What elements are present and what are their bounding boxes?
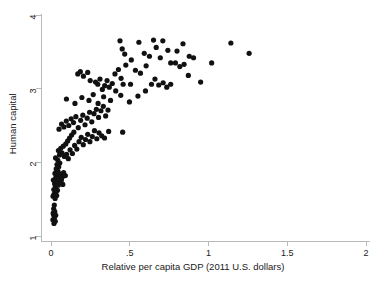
scatter-point (54, 193, 59, 198)
scatter-point (168, 82, 173, 87)
scatter-point (64, 152, 69, 157)
scatter-point (64, 118, 69, 123)
scatter-point (52, 202, 57, 207)
scatter-point (135, 93, 140, 98)
scatter-point (152, 76, 157, 81)
scatter-point (94, 107, 99, 112)
scatter-point (151, 37, 156, 42)
scatter-point (87, 139, 92, 144)
scatter-point (116, 67, 121, 72)
scatter-point (60, 182, 65, 187)
scatter-point (76, 139, 81, 144)
scatter-point (66, 156, 71, 161)
scatter-point (94, 136, 99, 141)
scatter-point (73, 114, 78, 119)
scatter-point (72, 101, 77, 106)
scatter-point (63, 173, 68, 178)
scatter-point (56, 127, 61, 132)
scatter-point (198, 79, 203, 84)
scatter-point (90, 134, 95, 139)
scatter-point (103, 113, 108, 118)
scatter-point (104, 78, 109, 83)
scatter-point (81, 142, 86, 147)
scatter-point (71, 130, 76, 135)
scatter-point (97, 76, 102, 81)
x-tick-label: 1 (206, 249, 211, 258)
scatter-point (147, 54, 152, 59)
x-tick-label: 2 (363, 249, 368, 258)
scatter-point (247, 51, 252, 56)
scatter-point (95, 82, 100, 87)
scatter-point (82, 122, 87, 127)
y-tick-label: 2 (29, 162, 38, 184)
scatter-point (123, 62, 128, 67)
scatter-point (61, 124, 66, 129)
scatter-point (156, 82, 161, 87)
scatter-canvas (0, 0, 386, 284)
scatter-point (96, 115, 101, 120)
scatter-point (80, 113, 85, 118)
scatter-point (95, 101, 100, 106)
scatter-point (110, 81, 115, 86)
y-tick-label: 4 (29, 15, 38, 37)
scatter-point (113, 88, 118, 93)
plot-area (0, 0, 386, 284)
scatter-point (101, 104, 106, 109)
scatter-plot-figure: Human capital Relative per capita GDP (2… (0, 0, 386, 284)
y-tick-label: 1 (29, 236, 38, 258)
scatter-point (106, 129, 111, 134)
scatter-point (87, 110, 92, 115)
scatter-point (53, 219, 58, 224)
scatter-point (174, 49, 179, 54)
scatter-point (143, 88, 148, 93)
scatter-point (133, 68, 138, 73)
scatter-point (108, 98, 113, 103)
scatter-point (88, 78, 93, 83)
scatter-point (128, 82, 133, 87)
scatter-point (66, 123, 71, 128)
scatter-point (136, 40, 141, 45)
scatter-point (55, 188, 60, 193)
scatter-point (59, 177, 64, 182)
scatter-point (76, 125, 81, 130)
scatter-point (142, 51, 147, 56)
x-tick-label: 0 (48, 249, 53, 258)
scatter-point (129, 57, 134, 62)
scatter-point (91, 92, 96, 97)
scatter-point (78, 69, 83, 74)
scatter-point (181, 62, 186, 67)
y-tick-label: 3 (29, 88, 38, 110)
scatter-point (149, 82, 154, 87)
scatter-point (98, 108, 103, 113)
scatter-point (173, 60, 178, 65)
scatter-point (112, 71, 117, 76)
scatter-point (168, 60, 173, 65)
scatter-point (180, 41, 185, 46)
x-axis-title: Relative per capita GDP (2011 U.S. dolla… (0, 262, 386, 272)
scatter-point (161, 80, 166, 85)
scatter-point (74, 146, 79, 151)
scatter-point (102, 83, 107, 88)
scatter-point (78, 118, 83, 123)
scatter-point (105, 107, 110, 112)
scatter-point (102, 135, 107, 140)
scatter-point (53, 213, 58, 218)
scatter-point (154, 45, 159, 50)
scatter-point (160, 38, 165, 43)
scatter-point (120, 46, 125, 51)
scatter-point (120, 130, 125, 135)
scatter-point (85, 132, 90, 137)
scatter-point (117, 38, 122, 43)
scatter-point (101, 94, 106, 99)
scatter-point (71, 120, 76, 125)
scatter-point (83, 137, 88, 142)
y-axis-title: Human capital (8, 64, 18, 184)
scatter-point (91, 111, 96, 116)
scatter-point (118, 93, 123, 98)
x-tick-label: 1.5 (281, 249, 294, 258)
scatter-point (81, 74, 86, 79)
scatter-point (144, 63, 149, 68)
scatter-point (122, 51, 127, 56)
scatter-point (79, 95, 84, 100)
scatter-point (228, 40, 233, 45)
